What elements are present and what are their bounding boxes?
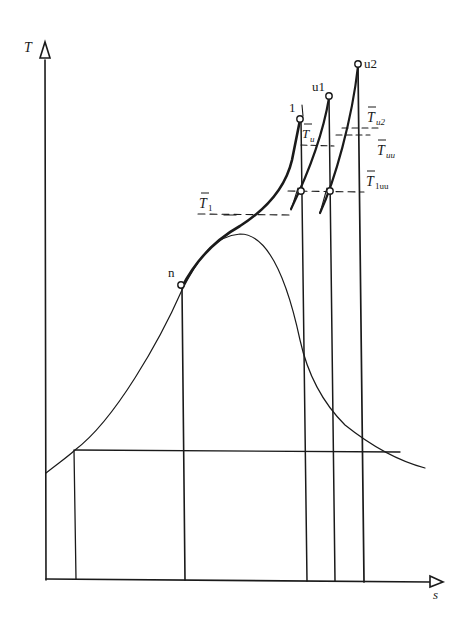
point-1-lower <box>298 188 304 194</box>
point-n <box>178 282 184 288</box>
vertical-line-u2 <box>358 66 364 582</box>
label-T1uu: T 1uu <box>366 171 389 191</box>
vertical-line-left <box>74 450 76 579</box>
y-axis <box>45 60 46 580</box>
svg-text:T: T <box>377 143 386 158</box>
point-u1-lower <box>327 188 333 194</box>
svg-text:T: T <box>367 110 376 125</box>
label-u2: u2 <box>364 56 377 71</box>
label-Tu2: T u2 <box>367 107 386 127</box>
y-axis-arrow-icon <box>40 42 50 58</box>
point-u2 <box>355 61 361 67</box>
svg-text:uu: uu <box>386 150 396 160</box>
vertical-line-u1 <box>329 98 335 581</box>
svg-text:u: u <box>310 134 315 144</box>
ts-diagram: T s n 1 u1 u2 T 1 T u T u2 T uu T 1uu <box>0 0 466 639</box>
label-u1: u1 <box>312 79 325 94</box>
heat-rejection-line <box>75 450 400 452</box>
svg-text:u2: u2 <box>376 117 386 127</box>
saturation-curve <box>46 234 425 473</box>
label-Tuu: T uu <box>377 140 396 160</box>
svg-text:T: T <box>302 126 310 141</box>
svg-text:T: T <box>366 174 375 189</box>
label-Tu: T u <box>302 124 315 144</box>
dashed-T1 <box>198 214 292 215</box>
point-1 <box>297 116 303 122</box>
x-axis-label: s <box>433 587 438 602</box>
svg-text:1: 1 <box>208 203 213 213</box>
vertical-line-n <box>182 288 185 580</box>
y-axis-label: T <box>24 40 33 55</box>
svg-text:T: T <box>199 196 208 211</box>
label-n: n <box>168 265 175 280</box>
svg-text:1uu: 1uu <box>375 181 389 191</box>
tick-1 <box>302 105 303 116</box>
point-u1 <box>326 93 332 99</box>
x-axis-arrow-icon <box>430 576 443 587</box>
label-T1: T 1 <box>199 193 213 213</box>
x-axis <box>46 579 430 582</box>
label-1: 1 <box>289 100 296 115</box>
